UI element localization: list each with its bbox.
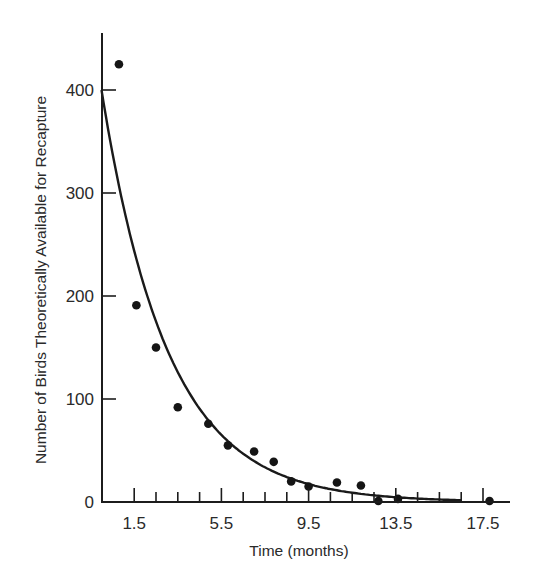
data-point — [269, 458, 278, 467]
y-tick-label: 300 — [66, 184, 94, 203]
y-tick-label: 200 — [66, 287, 94, 306]
data-point — [287, 477, 296, 486]
data-point — [174, 403, 183, 412]
x-tick-label: 9.5 — [297, 514, 321, 533]
data-point — [224, 441, 233, 450]
y-tick-label: 0 — [85, 493, 94, 512]
data-point — [204, 419, 213, 428]
y-tick-label: 100 — [66, 390, 94, 409]
x-tick-label: 1.5 — [122, 514, 146, 533]
data-points — [115, 60, 494, 505]
data-point — [115, 60, 124, 69]
data-point — [333, 478, 342, 487]
y-axis-title: Number of Birds Theoretically Available … — [32, 96, 49, 464]
plot-area — [102, 60, 494, 505]
x-axis-ticks: 1.55.59.513.517.5 — [122, 488, 499, 533]
decay-curve — [102, 90, 462, 500]
decay-curve-path — [102, 90, 462, 500]
data-point — [132, 301, 141, 310]
x-tick-label: 17.5 — [466, 514, 499, 533]
y-axis-ticks: 0100200300400 — [66, 81, 116, 512]
data-point — [250, 447, 259, 456]
data-point — [374, 497, 383, 506]
x-axis-title: Time (months) — [249, 542, 348, 559]
x-tick-label: 5.5 — [210, 514, 234, 533]
data-point — [152, 343, 161, 352]
x-tick-label: 13.5 — [379, 514, 412, 533]
chart: 1.55.59.513.517.5 0100200300400 Time (mo… — [0, 0, 535, 586]
data-point — [357, 481, 366, 490]
y-tick-label: 400 — [66, 81, 94, 100]
data-point — [485, 497, 494, 506]
